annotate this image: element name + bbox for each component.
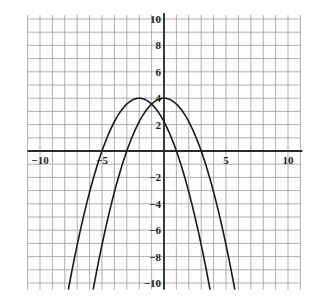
y-tick-label: −8	[149, 251, 161, 263]
parabola-graph: −10−5510108642−2−4−6−8−10	[0, 0, 318, 300]
x-tick-label: −5	[96, 154, 108, 166]
y-tick-label: −10	[144, 277, 162, 289]
x-tick-label: 5	[223, 154, 229, 166]
x-tick-label: 10	[283, 154, 295, 166]
y-tick-label: −4	[149, 198, 161, 210]
y-tick-label: −6	[149, 224, 161, 236]
axes	[28, 13, 303, 290]
y-tick-label: 10	[150, 13, 162, 25]
y-tick-label: 4	[156, 92, 162, 104]
y-tick-label: 8	[156, 39, 162, 51]
y-tick-label: 6	[156, 66, 162, 78]
x-tick-label: −10	[31, 154, 49, 166]
y-tick-label: 2	[156, 119, 162, 131]
y-tick-label: −2	[149, 171, 161, 183]
